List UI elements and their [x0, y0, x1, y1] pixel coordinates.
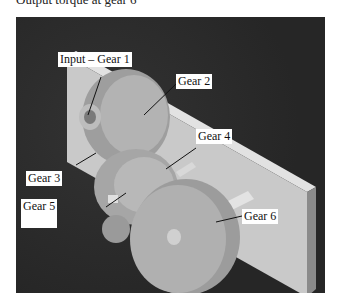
label-gear-5: Gear 5 — [21, 199, 57, 228]
label-gear-4: Gear 4 — [196, 129, 232, 144]
gear-train-render: Input – Gear 1 Gear 2 Gear 3 Gear 4 Gear… — [16, 17, 325, 293]
label-gear-6: Gear 6 — [242, 209, 278, 224]
gear-6-bore — [167, 229, 181, 245]
figure-caption: Output torque at gear 6 — [16, 0, 137, 8]
label-gear-3: Gear 3 — [26, 171, 62, 186]
label-gear-2: Gear 2 — [176, 74, 212, 89]
label-gear-1: Input – Gear 1 — [58, 52, 132, 67]
gear-5 — [102, 215, 130, 243]
plate-side-edge — [307, 187, 316, 293]
